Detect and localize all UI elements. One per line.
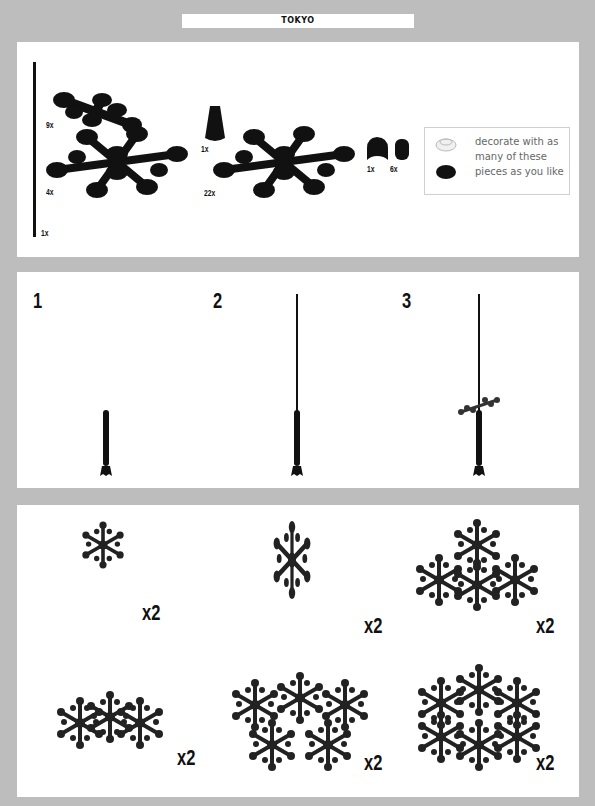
small-leaf-plate-icon — [52, 90, 142, 135]
variant-2-multiplier: x2 — [364, 613, 382, 639]
snowflake-plate-icon — [284, 162, 285, 163]
decoration-note: decorate with as many of these pieces as… — [424, 127, 570, 195]
snowflake-plate-qty: 22x — [204, 188, 215, 198]
dark-round-plate-icon — [435, 164, 457, 180]
cone-piece-icon — [203, 104, 227, 144]
round-brick-qty: 6x — [390, 164, 398, 174]
step-3-tree-icon — [457, 294, 502, 480]
triangle-cluster-icon — [477, 565, 478, 566]
double-branch-icon — [292, 560, 293, 561]
round-brick-icon — [394, 138, 410, 162]
variant-4-multiplier: x2 — [177, 745, 195, 771]
cone-qty: 1x — [201, 144, 209, 154]
large-leaf-plate-qty: 4x — [46, 187, 54, 197]
step-2-trunk-rod-icon — [291, 294, 303, 480]
light-round-plate-icon — [435, 136, 457, 152]
step-number-3: 3 — [402, 288, 411, 314]
decoration-note-text: decorate with as many of these pieces as… — [475, 134, 567, 179]
large-leaf-plate-icon — [117, 162, 118, 163]
rod-qty: 1x — [41, 228, 49, 238]
parts-list-panel: 1x 9x 1x 4x 22x 1x 6x decorate with as m… — [17, 42, 579, 257]
variant-1-multiplier: x2 — [142, 600, 160, 626]
double-cross-cluster-icon — [110, 723, 111, 724]
step-1-trunk-icon — [100, 410, 112, 480]
snowflake-variants-panel: x2 x2 x2 x2 x2 x2 — [17, 505, 579, 797]
arch-brick-icon — [366, 136, 390, 160]
step-number-2: 2 — [213, 288, 222, 314]
variant-3-multiplier: x2 — [536, 613, 554, 639]
page-title: TOKYO — [182, 14, 414, 28]
arch-brick-qty: 1x — [367, 164, 375, 174]
six-point-cluster-icon — [479, 715, 480, 716]
rod-piece-icon — [33, 62, 36, 237]
single-branch-icon — [103, 545, 104, 546]
build-steps-panel: 1 2 3 — [17, 272, 579, 488]
variant-5-multiplier: x2 — [364, 750, 382, 776]
variant-6-multiplier: x2 — [536, 750, 554, 776]
five-point-cluster-icon — [300, 710, 301, 711]
step-number-1: 1 — [33, 288, 42, 314]
small-leaf-plate-qty: 9x — [46, 120, 54, 130]
